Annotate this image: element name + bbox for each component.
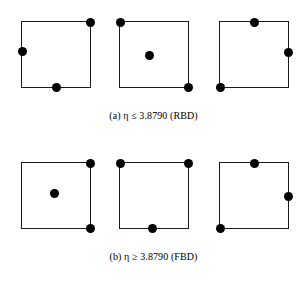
square-outline-a3 <box>219 21 289 88</box>
squares-row-a <box>0 0 307 110</box>
point-bottom-left-corner <box>216 224 225 233</box>
figure-panel-a: (a) η ≤ 3.8790 (RBD) <box>0 0 307 141</box>
point-bottom-edge-point <box>148 224 157 233</box>
square-cell-a1 <box>3 10 103 105</box>
point-bottom-left-corner <box>216 83 225 92</box>
point-top-right-corner <box>86 159 95 168</box>
square-outline-a1 <box>21 21 91 88</box>
square-cell-a3 <box>201 10 301 105</box>
square-outline-b2 <box>119 162 189 229</box>
caption-panel-b: (b) η ≥ 3.8790 (FBD) <box>0 250 307 263</box>
point-interior-point <box>50 189 59 198</box>
figure-container: (a) η ≤ 3.8790 (RBD) <box>0 0 307 282</box>
point-top-right-corner <box>86 18 95 27</box>
squares-row-b <box>0 141 307 251</box>
point-top-edge-point <box>250 18 259 27</box>
point-right-edge-point <box>284 192 293 201</box>
square-outline-b1 <box>21 162 91 229</box>
point-bottom-edge-point <box>52 83 61 92</box>
square-outline-b3 <box>219 162 289 229</box>
point-top-right-corner <box>184 159 193 168</box>
square-cell-b1 <box>3 151 103 246</box>
point-top-left-corner <box>116 18 125 27</box>
square-outline-a2 <box>119 21 189 88</box>
point-bottom-right-corner <box>86 224 95 233</box>
square-cell-b3 <box>201 151 301 246</box>
point-right-edge-point <box>284 48 293 57</box>
point-left-edge-point <box>18 47 27 56</box>
point-bottom-right-corner <box>184 83 193 92</box>
point-top-left-corner <box>116 159 125 168</box>
figure-panel-b: (b) η ≥ 3.8790 (FBD) <box>0 141 307 282</box>
square-cell-a2 <box>101 10 201 105</box>
point-top-edge-point <box>250 159 259 168</box>
caption-panel-a: (a) η ≤ 3.8790 (RBD) <box>0 109 307 122</box>
point-interior-point <box>145 51 154 60</box>
square-cell-b2 <box>101 151 201 246</box>
